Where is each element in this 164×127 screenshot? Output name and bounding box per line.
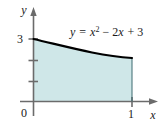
y-axis-label: y (20, 3, 27, 17)
svg-text:y=x2− 2x+ 3: y=x2− 2x+ 3 (69, 25, 143, 39)
equation-term2: − 2 (102, 25, 118, 39)
x-tick-label-1: 1 (128, 107, 134, 121)
equation-term3: + 3 (128, 25, 144, 39)
y-axis-arrow-icon (30, 7, 36, 16)
origin-tick-label: 0 (21, 106, 27, 120)
x-axis-label: x (149, 108, 156, 122)
equation-term2-variable: x (117, 25, 124, 39)
figure-container: y x 0 3 1 y=x2− 2x+ 3 (0, 0, 164, 127)
x-axis-arrow-icon (149, 98, 158, 104)
y-tick-label-3: 3 (17, 32, 23, 46)
equation-equals: = (79, 25, 86, 39)
parabola-area-figure: y x 0 3 1 y=x2− 2x+ 3 (0, 0, 164, 127)
equation-lhs: y (69, 25, 76, 39)
curve-equation-label: y=x2− 2x+ 3 (69, 25, 143, 39)
equation-term1-exponent: 2 (95, 25, 99, 34)
shaded-area-region (34, 39, 133, 102)
